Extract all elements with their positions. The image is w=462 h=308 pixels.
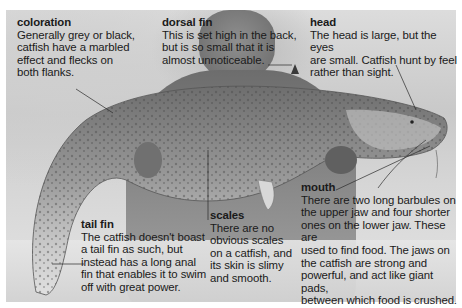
annotation-body: This is set high in the back, but is so … [162, 29, 297, 67]
annotation-body: The head is large, but the eyes are smal… [310, 29, 462, 79]
annotation-title: scales [210, 209, 292, 222]
annotation-title: dorsal fin [162, 16, 297, 29]
annotation-title: tail fin [81, 218, 206, 231]
annotation-coloration: coloration Generally grey or black, catf… [17, 16, 135, 79]
annotation-title: mouth [301, 181, 462, 194]
annotation-body: There are no obvious scales on a catfish… [210, 222, 292, 285]
annotation-body: There are two long barbules on the upper… [301, 194, 462, 307]
annotation-tail-fin: tail fin The catfish doesn't boast a tai… [81, 218, 206, 294]
annotation-mouth: mouth There are two long barbules on the… [301, 181, 462, 307]
annotation-title: head [310, 16, 462, 29]
annotation-body: The catfish doesn't boast a tail fin as … [81, 231, 206, 294]
annotation-title: coloration [17, 16, 135, 29]
annotation-dorsal-fin: dorsal fin This is set high in the back,… [162, 16, 297, 66]
annotation-head: head The head is large, but the eyes are… [310, 16, 462, 79]
annotation-scales: scales There are no obvious scales on a … [210, 209, 292, 285]
annotation-body: Generally grey or black, catfish have a … [17, 29, 135, 79]
